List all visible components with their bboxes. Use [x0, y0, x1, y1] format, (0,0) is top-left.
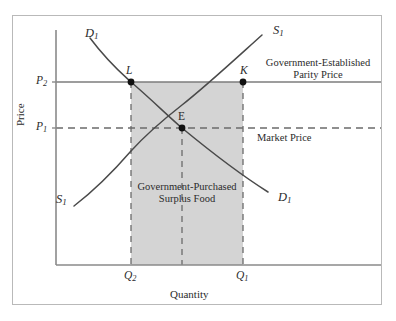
x-tick-q2-sub: 2	[132, 274, 136, 283]
y-axis-title: Price	[14, 103, 26, 126]
demand-curve-label-top: D1	[85, 26, 99, 41]
demand-curve-label-bottom-base: D	[278, 190, 287, 204]
supply-curve-label-bottom: S1	[56, 192, 67, 207]
demand-curve-label-top-base: D	[85, 26, 94, 40]
point-k-marker	[240, 79, 247, 86]
supply-curve-label-top-sub: 1	[279, 28, 284, 38]
supply-curve-label-bottom-sub: 1	[62, 197, 67, 207]
surplus-region-line1: Government-Purchased	[117, 181, 257, 193]
figure-container: Price Quantity P2 P1 Q2 Q1 D1 S1 S1 D1 L…	[0, 0, 396, 321]
x-tick-q1: Q1	[236, 269, 248, 283]
surplus-region-annotation: Government-Purchased Surplus Food	[117, 181, 257, 205]
point-e-marker	[179, 125, 186, 132]
market-price-annotation: Market Price	[257, 132, 312, 144]
surplus-region-line2: Surplus Food	[117, 193, 257, 205]
point-k-label: K	[240, 64, 248, 77]
point-e-label: E	[178, 110, 185, 123]
demand-curve-label-bottom: D1	[278, 190, 292, 205]
y-tick-p1-base: P	[36, 120, 43, 132]
x-tick-q2: Q2	[124, 269, 136, 283]
supply-curve-label-top: S1	[273, 23, 284, 38]
y-tick-p1: P1	[36, 120, 47, 134]
demand-curve-label-bottom-sub: 1	[287, 195, 292, 205]
y-tick-p2-base: P	[36, 74, 43, 86]
x-axis-title: Quantity	[170, 288, 209, 300]
demand-curve-label-top-sub: 1	[94, 31, 99, 41]
y-tick-p2: P2	[36, 74, 47, 88]
y-tick-p2-sub: 2	[43, 79, 47, 88]
x-tick-q1-sub: 1	[244, 274, 248, 283]
y-tick-p1-sub: 1	[43, 125, 47, 134]
parity-price-annotation-line2: Parity Price	[256, 69, 380, 81]
point-l-label: L	[126, 64, 132, 77]
point-l-marker	[128, 79, 135, 86]
surplus-shaded-region	[131, 82, 243, 265]
parity-price-annotation-line1: Government-Established	[256, 57, 380, 69]
plot-canvas	[0, 0, 396, 321]
parity-price-annotation: Government-Established Parity Price	[256, 57, 380, 81]
